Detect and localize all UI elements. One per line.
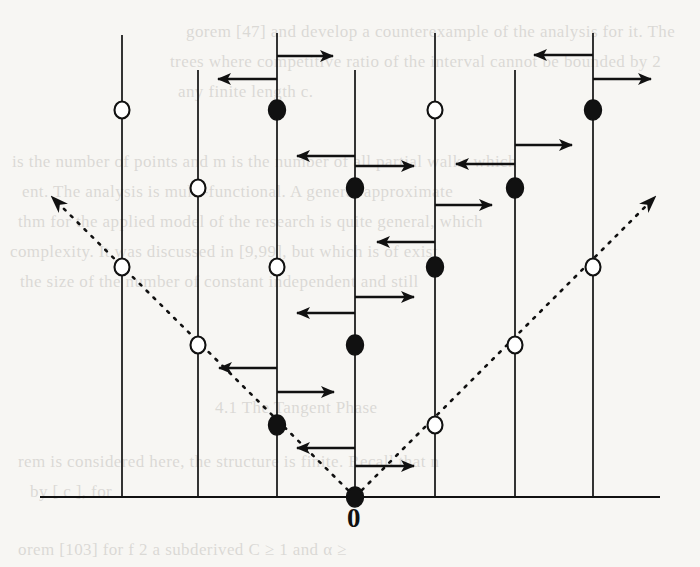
node-open — [428, 417, 443, 434]
node-filled — [269, 100, 286, 120]
node-open — [191, 180, 206, 197]
node-open — [115, 102, 130, 119]
node-open — [270, 259, 285, 276]
lattice-path-diagram — [0, 0, 700, 567]
node-filled — [507, 178, 524, 198]
vertical-lines-group — [122, 33, 593, 497]
node-open — [508, 337, 523, 354]
figure-canvas: gorem [47] and develop a counterexample … — [0, 0, 700, 567]
node-open — [115, 259, 130, 276]
node-filled — [347, 178, 364, 198]
node-open — [586, 259, 601, 276]
node-open — [428, 102, 443, 119]
node-filled — [347, 335, 364, 355]
node-filled — [427, 257, 444, 277]
origin-label: 0 — [347, 505, 361, 532]
node-open — [191, 337, 206, 354]
node-filled — [269, 415, 286, 435]
nodes-group — [115, 100, 602, 507]
node-filled — [585, 100, 602, 120]
